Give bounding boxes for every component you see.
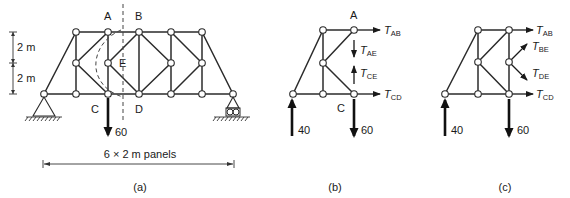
span-label: 6 × 2 m panels xyxy=(104,148,177,160)
node-label-b: B xyxy=(135,10,142,22)
panel-a-full-truss xyxy=(9,4,250,168)
span-dimension xyxy=(43,160,234,168)
force-label-tcd: TCD xyxy=(536,88,554,102)
reaction-value: 40 xyxy=(298,124,310,136)
force-label-tae: TAE xyxy=(360,44,377,58)
force-label-tbe: TBE xyxy=(532,40,549,54)
force-label-tab: TAB xyxy=(384,24,401,38)
load-value: 60 xyxy=(115,126,127,138)
roller-support-icon xyxy=(213,97,250,121)
force-arrow-tbe-icon xyxy=(511,44,527,60)
node-label-a: A xyxy=(350,9,358,21)
force-arrow-tde-icon xyxy=(511,64,527,80)
caption-b: (b) xyxy=(328,181,341,193)
caption-a: (a) xyxy=(133,181,146,193)
node-label-c: C xyxy=(337,102,345,114)
dim-label-upper: 2 m xyxy=(17,41,35,53)
pin-support-icon xyxy=(25,97,62,121)
force-label-tcd: TCD xyxy=(384,88,402,102)
height-dimension xyxy=(9,32,17,94)
reaction-value: 40 xyxy=(451,124,463,136)
caption-c: (c) xyxy=(499,181,512,193)
node-label-d: D xyxy=(135,103,143,115)
force-label-tce: TCE xyxy=(360,67,377,81)
dim-label-lower: 2 m xyxy=(17,72,35,84)
panel-c-free-body-alt xyxy=(442,27,533,136)
node-label-c: C xyxy=(91,103,99,115)
load-value: 60 xyxy=(517,124,529,136)
node-label-e: E xyxy=(119,57,126,69)
truss-figure: 2 m 2 m A B C D E 60 6 × 2 m panels (a) … xyxy=(0,0,570,198)
force-label-tab: TAB xyxy=(536,24,553,38)
node-label-a: A xyxy=(104,10,112,22)
force-label-tde: TDE xyxy=(532,67,549,81)
load-value: 60 xyxy=(361,124,373,136)
